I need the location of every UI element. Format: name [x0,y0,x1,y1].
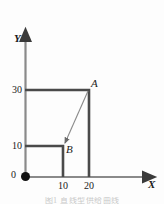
coordinate-diagram: Y X 30 10 10 20 0 A B 图1 直线型供给曲线 [0,0,164,204]
origin-label: 0 [11,170,16,180]
guide-line-b [25,146,63,177]
y-tick-label-30: 30 [3,85,22,95]
arrow-a-to-b [65,91,88,143]
figure-caption: 图1 直线型供给曲线 [0,197,164,204]
x-tick-label-10: 10 [52,181,74,191]
x-tick-label-20: 20 [78,181,100,191]
origin-dot [21,172,30,181]
point-label-a: A [91,78,98,89]
guide-line-a [25,90,89,177]
x-axis-label: X [148,179,155,190]
y-tick-label-10: 10 [3,141,22,151]
y-axis-label: Y [14,33,21,44]
point-label-b: B [66,144,73,155]
